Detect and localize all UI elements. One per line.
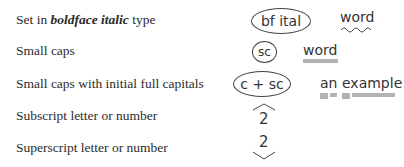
label-subscript: Subscript letter or number <box>16 108 157 124</box>
example-word-an: an <box>320 75 337 91</box>
label-emphasis: boldface italic <box>51 12 129 27</box>
bf-ital-mark-text: bf ital <box>261 13 301 29</box>
label-small-caps: Small caps <box>16 43 75 59</box>
example-word-bf-ital: word <box>340 9 374 25</box>
wavy-underline-icon <box>340 26 376 32</box>
label-suffix: type <box>129 12 156 27</box>
sc-mark-text: sc <box>258 45 271 59</box>
double-underline-icon <box>303 59 339 64</box>
bf-ital-oval-mark: bf ital <box>251 8 311 34</box>
example-word-sc: word <box>303 42 337 58</box>
superscript-mark: 2 <box>259 133 269 151</box>
example-word-example: example <box>342 75 402 91</box>
c-plus-sc-mark-text: c + sc <box>240 76 283 92</box>
label-prefix: Set in <box>16 12 51 27</box>
c-plus-sc-oval-mark: c + sc <box>233 71 291 97</box>
subscript-mark: 2 <box>259 110 269 128</box>
caret-below-icon <box>252 151 276 160</box>
label-superscript: Superscript letter or number <box>16 140 168 156</box>
label-boldface-italic: Set in boldface italic type <box>16 12 156 28</box>
triple-double-underline-icon <box>320 93 396 100</box>
sc-circle-mark: sc <box>252 41 277 63</box>
label-small-caps-initial: Small caps with initial full capitals <box>16 76 204 92</box>
